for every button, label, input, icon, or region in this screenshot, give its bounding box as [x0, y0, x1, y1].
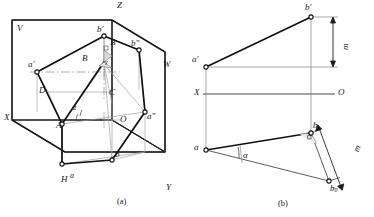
point-A-label: A: [56, 121, 62, 130]
technical-drawing-canvas: [0, 0, 374, 217]
point-b-lower-label: b: [115, 150, 120, 159]
point-D-label: D: [39, 86, 46, 95]
caption-a: (a): [117, 197, 126, 206]
point-B-upper-label: B: [110, 38, 116, 47]
point-b-double-prime-label: b″: [131, 39, 139, 48]
axis-Y-label: Y: [166, 183, 171, 192]
point-C-label: C: [109, 88, 115, 97]
point-a-lower-label: a: [70, 172, 74, 180]
caption-b: (b): [278, 199, 288, 208]
vertex-b-prime: [102, 34, 106, 38]
b-point-b-label: b: [313, 121, 318, 130]
panel-b-group: [203, 15, 344, 190]
b-point-b0-label: b0: [330, 184, 338, 193]
frontal-projection-a-b: [206, 17, 311, 67]
vertex-markers-panel-b: [204, 15, 331, 183]
b-point-a-label: a: [194, 143, 199, 152]
origin-O-label: O: [120, 115, 127, 124]
plane-H-label: H: [61, 175, 68, 184]
plane-V-label: V: [17, 24, 23, 33]
point-a-prime-label: a′: [28, 60, 34, 69]
vertex-b-a: [204, 148, 208, 152]
plane-H-outline: [12, 120, 165, 152]
vertex-b-a-prime: [204, 65, 208, 69]
vertex-b-b: [309, 131, 313, 135]
b-point-a-prime-label: a′: [192, 55, 198, 64]
b-angle-alpha-label: α: [243, 151, 248, 160]
true-length-line-a-b0: [206, 150, 329, 181]
b-axis-X-label: X: [194, 88, 200, 97]
right-angle-marker-b: [300, 133, 316, 144]
plane-W-label: W: [163, 60, 171, 69]
angle-alpha-marker-b: [238, 147, 239, 158]
alpha-reference-tick: [240, 145, 242, 163]
axis-X-label: X: [4, 113, 10, 122]
axis-Z-label: Z: [117, 1, 122, 10]
panel-a-group: [12, 20, 165, 166]
horizontal-projection-a-b: [206, 133, 311, 150]
point-a-double-prime-label: a″: [147, 112, 155, 121]
angle-alpha-a-label: α: [72, 104, 76, 112]
point-B-mid-label: B: [82, 54, 88, 63]
angle-gamma-a-label: γ: [105, 59, 108, 66]
dimension-m-vertical-label: m: [341, 44, 350, 51]
vertex-b-double-prime: [137, 48, 141, 52]
plane-V-outline: [12, 20, 112, 120]
point-b-prime-label: b′: [97, 25, 103, 34]
vertex-b-b-prime: [309, 15, 313, 19]
vertex-a-lower: [60, 162, 64, 166]
b-origin-O-label: O: [338, 88, 345, 97]
b-point-b-prime-label: b′: [305, 3, 311, 12]
vertex-a-prime: [35, 70, 39, 74]
dimension-m-vertical: [331, 17, 336, 67]
angle-alpha-marker-a: [76, 110, 82, 119]
projection-connectors: [206, 17, 311, 150]
vertex-b-lower: [110, 158, 114, 162]
